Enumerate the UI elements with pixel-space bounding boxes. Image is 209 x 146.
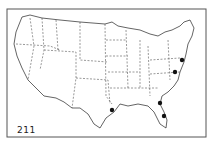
marker-4 — [158, 101, 162, 105]
marker-2 — [173, 70, 177, 74]
state-borders — [16, 18, 180, 108]
marker-3 — [110, 108, 114, 112]
figure-number: 211 — [17, 125, 36, 135]
marker-1 — [180, 58, 184, 62]
marker-5 — [162, 114, 166, 118]
us-outline — [14, 15, 194, 128]
faint-caption — [45, 138, 165, 142]
